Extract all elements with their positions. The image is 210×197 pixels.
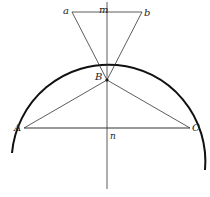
line-CB [107,80,190,128]
geometry-diagram: a m b B A n C [0,0,210,197]
line-AB [24,80,107,128]
label-m: m [99,5,108,15]
label-n: n [110,131,116,141]
point-B [105,78,108,81]
label-C: C [192,123,200,133]
diagram-svg [0,0,210,197]
label-b: b [144,8,150,18]
label-A: A [14,123,21,133]
label-B: B [95,72,102,82]
label-a: a [63,6,69,16]
circle-arc [12,65,205,170]
